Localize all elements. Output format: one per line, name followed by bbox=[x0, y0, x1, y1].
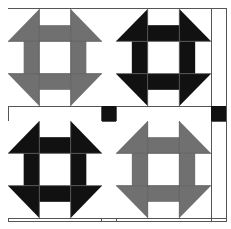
cornerstone-right bbox=[211, 106, 226, 121]
churn-dash-block-top-left bbox=[8, 9, 102, 106]
sashing-line bbox=[8, 218, 227, 219]
sashing-line bbox=[8, 106, 227, 107]
churn-dash-block-bottom-right bbox=[116, 121, 211, 218]
churn-dash-block-top-right bbox=[116, 9, 211, 106]
cornerstone-center bbox=[102, 106, 116, 121]
churn-dash-block-bottom-left bbox=[8, 121, 102, 218]
quilt-image bbox=[0, 0, 231, 229]
